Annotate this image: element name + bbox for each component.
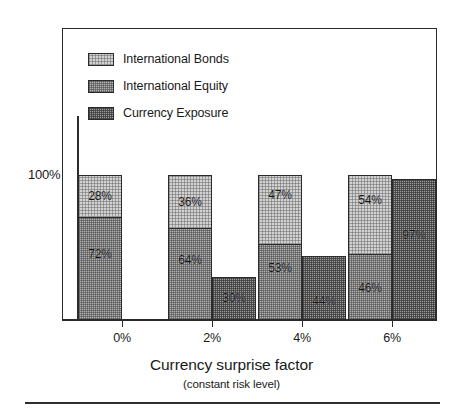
x-axis-tick-label-4pct: 4% — [280, 331, 324, 345]
bar-segment-equity-2pct: 64% — [169, 228, 211, 320]
legend-label-international-equity: International Equity — [123, 80, 228, 93]
legend-swatch-icon-international-equity — [88, 80, 114, 93]
bar-stacked-4pct: 47% 53% — [258, 175, 302, 320]
legend-item-international-bonds: International Bonds — [88, 48, 288, 70]
bar-segment-bonds-6pct: 54% — [349, 176, 391, 254]
bar-currency-exposure-6pct: 97% — [392, 179, 436, 320]
bar-value-label-currency-4pct: 44% — [312, 294, 335, 308]
bar-value-label-equity-6pct: 46% — [358, 281, 381, 295]
x-axis-title: Currency surprise factor — [0, 356, 463, 374]
bar-currency-exposure-4pct: 44% — [302, 256, 346, 320]
bar-segment-equity-6pct: 46% — [349, 254, 391, 320]
legend-label-international-bonds: International Bonds — [123, 53, 229, 66]
bar-value-label-bonds-2pct: 36% — [178, 195, 201, 209]
bar-value-label-currency-2pct: 30% — [222, 291, 245, 305]
chart-legend: International Bonds International Equity… — [88, 48, 288, 129]
bar-value-label-bonds-0pct: 28% — [88, 189, 111, 203]
x-axis-tick-label-2pct: 2% — [190, 331, 234, 345]
x-axis-tick-label-0pct: 0% — [100, 331, 144, 345]
legend-swatch-icon-international-bonds — [88, 53, 114, 66]
bar-value-label-bonds-4pct: 47% — [268, 188, 291, 202]
bar-stacked-2pct: 36% 64% — [168, 175, 212, 320]
bar-stacked-6pct: 54% 46% — [348, 175, 392, 320]
chart-figure: International Bonds International Equity… — [0, 0, 463, 412]
legend-swatch-icon-currency-exposure — [88, 107, 114, 120]
bar-currency-exposure-2pct: 30% — [212, 277, 256, 321]
x-axis-subtitle: (constant risk level) — [0, 378, 463, 390]
legend-item-international-equity: International Equity — [88, 75, 288, 97]
x-axis-tick-0pct — [122, 320, 123, 327]
bar-segment-bonds-4pct: 47% — [259, 176, 301, 244]
bar-value-label-currency-6pct: 97% — [402, 228, 425, 242]
bar-stacked-0pct: 28% 72% — [78, 175, 122, 320]
bar-segment-bonds-0pct: 28% — [79, 176, 121, 217]
bar-value-label-bonds-6pct: 54% — [358, 193, 381, 207]
bar-segment-equity-0pct: 72% — [79, 217, 121, 320]
x-axis-tick-4pct — [302, 320, 303, 327]
y-axis-tick-label-100: 100% — [28, 167, 60, 182]
x-axis-tick-2pct — [212, 320, 213, 327]
bar-value-label-equity-2pct: 64% — [178, 253, 201, 267]
bar-value-label-equity-0pct: 72% — [88, 247, 111, 261]
legend-item-currency-exposure: Currency Exposure — [88, 102, 288, 124]
bar-segment-bonds-2pct: 36% — [169, 176, 211, 228]
bottom-horizontal-rule — [25, 402, 440, 404]
bar-segment-equity-4pct: 53% — [259, 244, 301, 320]
bar-value-label-equity-4pct: 53% — [268, 261, 291, 275]
x-axis-tick-6pct — [392, 320, 393, 327]
x-axis-tick-label-6pct: 6% — [370, 331, 414, 345]
legend-label-currency-exposure: Currency Exposure — [123, 107, 228, 120]
